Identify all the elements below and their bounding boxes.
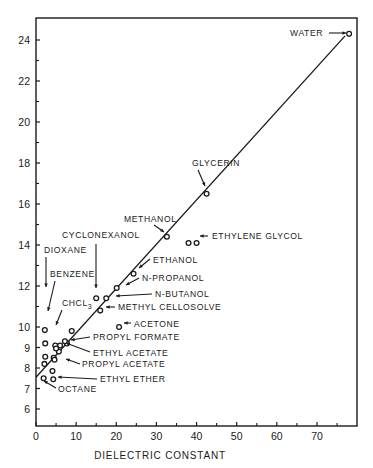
data-point [42,362,47,367]
data-point [347,31,352,36]
data-point [54,346,59,351]
y-tick-label: 14 [18,239,30,251]
x-axis-title: DIELECTRIC CONSTANT [94,450,226,461]
data-point [186,241,191,246]
y-tick-label: 20 [18,116,30,128]
data-point [104,296,109,301]
data-point [51,377,56,382]
data-point [43,354,48,359]
point-label: N-BUTANOL [155,289,209,299]
data-point [164,234,169,239]
point-label: N-PROPANOL [142,273,204,283]
point-label: PROPYL ACETATE [82,359,165,369]
y-tick-label: 9 [24,342,30,354]
point-label: OCTANE [58,384,97,394]
data-point [117,325,122,330]
trend-line [36,36,345,377]
data-point [194,241,199,246]
point-label: ACETONE [134,319,180,329]
x-tick-label: 0 [33,430,39,442]
point-label: GLYCERIN [192,158,240,168]
y-tick-label: 22 [18,75,30,87]
point-labels: WATERGLYCERINMETHANOLETHYLENE GLYCOLCYCL… [44,28,346,394]
y-tick-label: 24 [18,34,30,46]
data-points [41,31,351,381]
point-label: ETHANOL [153,255,198,265]
data-point [52,357,57,362]
data-point [69,329,74,334]
data-point [114,286,119,291]
x-tick-label: 10 [70,430,82,442]
x-tick-label: 20 [110,430,122,442]
point-label: ETHYL ETHER [100,374,166,384]
data-point [98,308,103,313]
point-label: DIOXANE [44,245,87,255]
y-tick-label: 16 [18,198,30,210]
point-label: PROPYL FORMATE [93,332,180,342]
y-tick-label: 8 [24,362,30,374]
x-tick-label: 50 [231,430,243,442]
data-point [94,296,99,301]
data-point [43,341,48,346]
data-point [50,369,55,374]
point-label: BENZENE [50,269,95,279]
x-axis: 010203040506070 [33,422,337,442]
y-tick-label: 7 [24,383,30,395]
point-label: CHCL3 [62,298,92,310]
x-tick-label: 70 [311,430,323,442]
y-tick-label: 6 [24,403,30,415]
point-label: CYCLONEXANOL [62,230,140,240]
y-tick-label: 18 [18,157,30,169]
point-label: ETHYLENE GLYCOL [212,231,303,241]
y-tick-label: 10 [18,321,30,333]
x-tick-label: 60 [271,430,283,442]
y-tick-label: 12 [18,280,30,292]
point-label: METHYL CELLOSOLVE [118,302,221,312]
point-label: METHANOL [124,214,177,224]
data-point [42,328,47,333]
data-point [131,271,136,276]
x-tick-label: 40 [191,430,203,442]
dielectric-scatter-chart: 67891012141618202224 010203040506070 WAT… [0,0,373,468]
point-label: WATER [290,28,323,38]
y-axis: 67891012141618202224 [18,34,40,415]
data-point [204,191,209,196]
point-label: ETHYL ACETATE [93,348,168,358]
x-tick-label: 30 [151,430,163,442]
data-point [41,376,46,381]
